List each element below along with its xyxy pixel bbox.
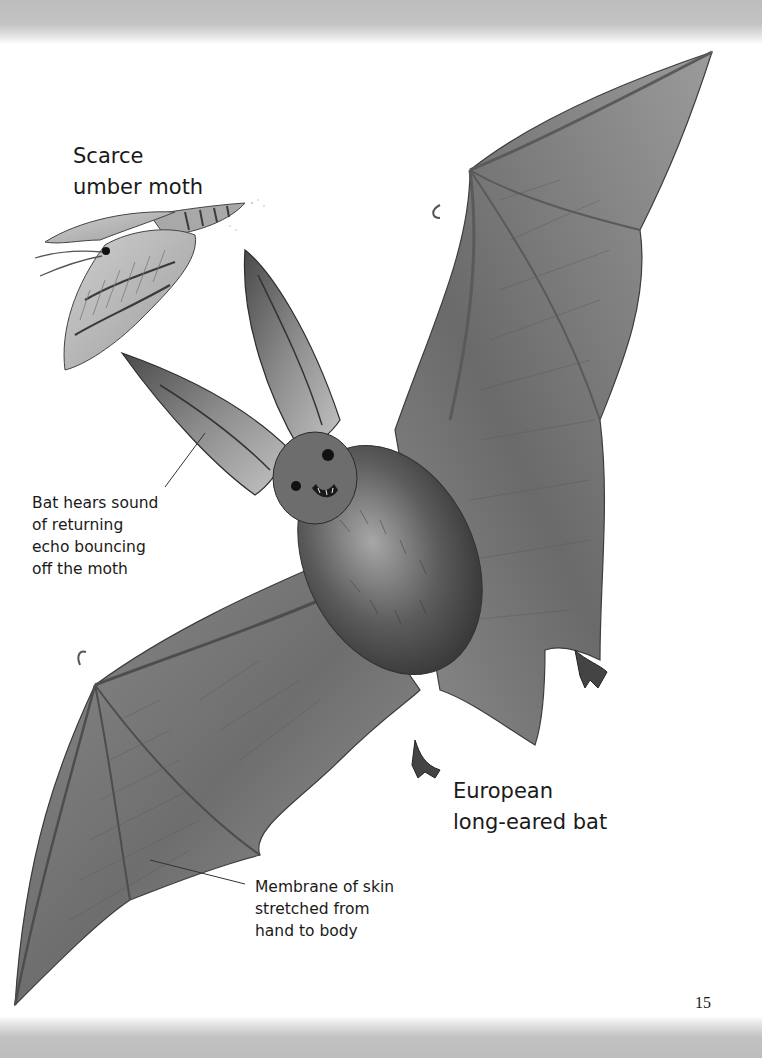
membrane-label: Membrane of skin stretched from hand to … xyxy=(255,876,394,942)
book-page: Scarce umber moth Bat hears sound of ret… xyxy=(0,0,762,1058)
echo-label-line: echo bouncing xyxy=(32,536,158,558)
bat-label-line: long-eared bat xyxy=(453,807,607,838)
echo-label-line: of returning xyxy=(32,514,158,536)
bat-left-foot xyxy=(412,740,440,778)
bat-eye xyxy=(322,449,334,461)
bat-label-line: European xyxy=(453,776,607,807)
echo-leader-line xyxy=(165,433,205,487)
echo-label: Bat hears sound of returning echo bounci… xyxy=(32,492,158,580)
moth-eye xyxy=(102,247,110,255)
bat-right-ear xyxy=(244,250,340,450)
moth-label: Scarce umber moth xyxy=(73,141,203,203)
membrane-label-line: Membrane of skin xyxy=(255,876,394,898)
moth-label-line: umber moth xyxy=(73,172,203,203)
echo-label-line: off the moth xyxy=(32,558,158,580)
echo-label-line: Bat hears sound xyxy=(32,492,158,514)
bat-head xyxy=(273,432,357,524)
membrane-label-line: stretched from xyxy=(255,898,394,920)
membrane-label-line: hand to body xyxy=(255,920,394,942)
moth-illustration xyxy=(35,199,265,370)
bat-label: European long-eared bat xyxy=(453,776,607,838)
moth-label-line: Scarce xyxy=(73,141,203,172)
page-number: 15 xyxy=(695,994,711,1012)
